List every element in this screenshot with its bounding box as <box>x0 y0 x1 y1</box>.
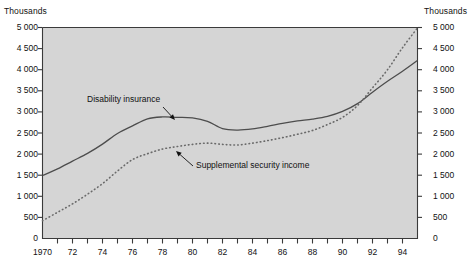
y-axis-tick-label-left: 5 000 <box>0 23 38 32</box>
y-axis-tick-label-right: 3 000 <box>433 107 471 116</box>
y-axis-tick-label-left: 3 500 <box>0 86 38 95</box>
plot-background <box>43 28 418 239</box>
y-axis-tick-label-left: 4 500 <box>0 44 38 53</box>
y-axis-tick-label-left: 0 <box>0 234 38 243</box>
y-axis-tick-label-right: 4 000 <box>433 65 471 74</box>
y-axis-tick-label-left: 1 000 <box>0 192 38 201</box>
y-axis-tick-label-right: 0 <box>433 234 471 243</box>
y-axis-tick-label-right: 5 000 <box>433 23 471 32</box>
y-axis-tick-label-right: 2 000 <box>433 150 471 159</box>
y-axis-tick-label-right: 3 500 <box>433 86 471 95</box>
y-axis-tick-label-right: 4 500 <box>433 44 471 53</box>
y-axis-tick-label-left: 2 500 <box>0 129 38 138</box>
y-axis-tick-label-left: 4 000 <box>0 65 38 74</box>
line-chart: Thousands Thousands Disability insurance… <box>0 0 471 273</box>
y-axis-tick-label-left: 2 000 <box>0 150 38 159</box>
plot-area: Disability insuranceSupplemental securit… <box>0 0 471 273</box>
annotation-label-2: Supplemental security income <box>196 160 310 170</box>
y-axis-tick-label-right: 1 000 <box>433 192 471 201</box>
annotation-label-1: Disability insurance <box>87 94 160 104</box>
y-axis-tick-label-left: 500 <box>0 213 38 222</box>
y-axis-tick-label-right: 2 500 <box>433 129 471 138</box>
y-axis-tick-label-right: 1 500 <box>433 171 471 180</box>
x-axis-tick-label: 94 <box>383 248 423 257</box>
y-axis-tick-label-left: 3 000 <box>0 107 38 116</box>
y-axis-tick-label-right: 500 <box>433 213 471 222</box>
y-axis-tick-label-left: 1 500 <box>0 171 38 180</box>
